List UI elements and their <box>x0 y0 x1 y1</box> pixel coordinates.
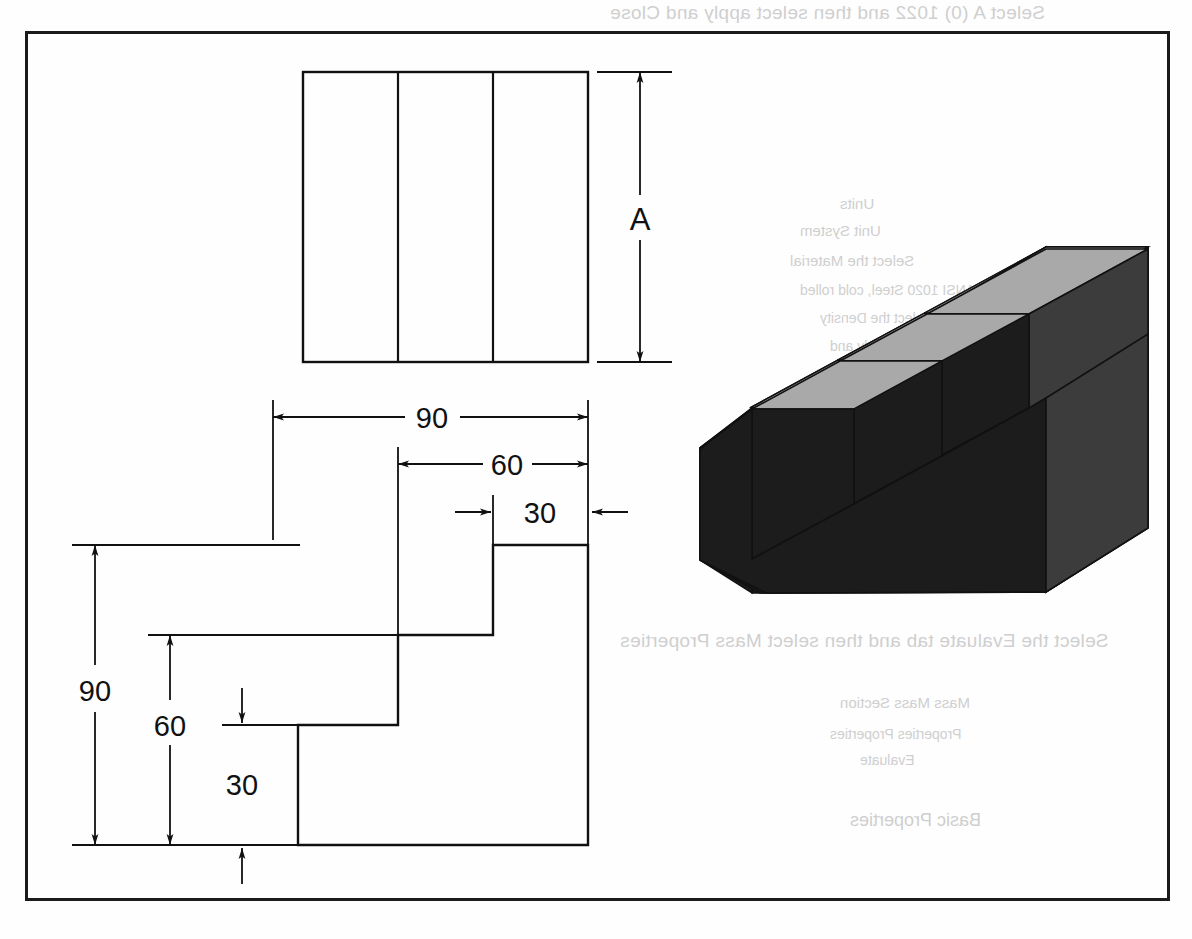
bleed-text-top: Select A (0) 1022 and then select apply … <box>610 2 1045 24</box>
drawing-frame <box>25 31 1170 901</box>
drawing-page: Select A (0) 1022 and then select apply … <box>0 0 1192 939</box>
